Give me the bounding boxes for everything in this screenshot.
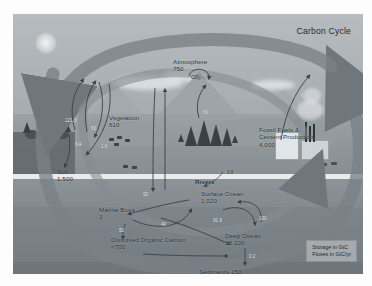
cattle-shape	[109, 138, 114, 141]
tree-shape	[232, 135, 238, 143]
page-title: Carbon Cycle	[297, 26, 351, 36]
label-atmosphere: Atmosphere 750	[173, 58, 207, 73]
flux-respiration: 60	[91, 126, 96, 131]
vehicle-shape	[321, 163, 327, 166]
bush-shape	[57, 131, 69, 139]
tree-shape	[222, 128, 232, 146]
label-surface-ocean: Surface Ocean 1,020	[201, 190, 244, 205]
cattle-shape	[114, 143, 119, 146]
tree-shape	[178, 134, 184, 142]
tree-shape	[65, 124, 71, 132]
tree-shape	[185, 126, 197, 146]
flux-doc: 40	[161, 222, 166, 227]
label-marine-biota: Marine Biota 3	[99, 206, 135, 221]
label-fossil-fuels: Fossil Fuels & Cement Production 4,000	[259, 126, 314, 148]
tree-shape	[47, 123, 53, 131]
flux-photosynthesis: 121.3	[65, 118, 77, 123]
sediment-layer	[13, 262, 363, 274]
co2-molecule-label: CO₂	[191, 74, 200, 80]
cattle-shape	[125, 139, 130, 142]
flux-river-discharge: 0.8	[227, 170, 233, 175]
label-deep-ocean: Deep Ocean 38,100	[225, 232, 261, 247]
vehicle-shape	[311, 162, 317, 165]
flux-forest-respiration: 60	[203, 110, 208, 115]
flux-deep-down: 91.6	[213, 218, 222, 223]
label-soil: Soil 1,500	[57, 168, 73, 183]
flux-ocean-uptake: 92	[143, 192, 148, 197]
surface-ocean-layer	[13, 179, 363, 207]
figure-canvas: Carbon Cycle Atmosphere 750 CO₂ Vegetati…	[0, 0, 372, 286]
flux-fossil-emissions: 5.5	[301, 94, 307, 99]
vehicle-shape	[331, 162, 337, 165]
label-vegetation: Vegetation 610	[109, 114, 139, 129]
flux-sediment: 0.2	[249, 254, 255, 259]
tree-shape	[210, 124, 222, 146]
cattle-shape	[132, 166, 137, 169]
flux-deep-up: 100	[259, 216, 267, 221]
tree-shape	[197, 120, 211, 146]
label-sediments: Sediments 150	[199, 268, 242, 274]
carbon-cycle-illustration: Carbon Cycle Atmosphere 750 CO₂ Vegetati…	[13, 14, 363, 274]
label-dissolved-organic-carbon: Dissolved Organic Carbon <700	[111, 236, 186, 251]
cattle-shape	[123, 165, 128, 168]
cattle-shape	[117, 136, 122, 139]
sun-icon	[35, 32, 57, 54]
flux-land-use: 6.4	[75, 142, 81, 147]
flux-biota: 50	[119, 228, 124, 233]
flux-land-sink: 1.6	[101, 144, 107, 149]
legend-units: Storage in GtC Fluxes in GtC/yr	[306, 240, 357, 262]
label-rivers: Rivers	[195, 178, 215, 185]
tree-shape	[23, 122, 31, 133]
